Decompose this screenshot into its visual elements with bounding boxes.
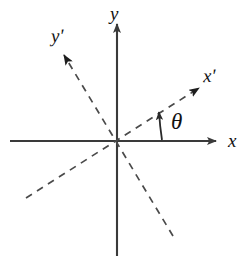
x-prime-axis-label: x′ — [203, 66, 216, 85]
y-axis-label: y — [110, 4, 118, 23]
x-prime-axis-line — [26, 88, 199, 198]
y-prime-axis-label: y′ — [51, 26, 64, 45]
theta-angle-label: θ — [171, 110, 182, 133]
axes-drawing — [0, 0, 252, 264]
x-axis-label: x — [228, 131, 236, 150]
coordinate-rotation-figure: y x x′ y′ θ — [0, 0, 252, 264]
theta-arc-arrow — [159, 112, 162, 140]
y-prime-axis-line — [64, 55, 173, 236]
